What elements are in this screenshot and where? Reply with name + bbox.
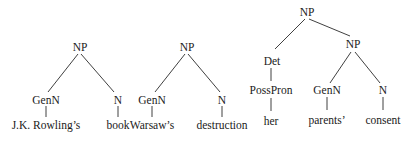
tree-3-posspron: PossPron (250, 84, 293, 96)
tree-1-root-np: NP (73, 41, 88, 53)
tree-3-leaf-parents: parents’ (308, 114, 345, 126)
tree-2-leaf-destruction: destruction (196, 119, 247, 131)
tree-1-genn: GenN (32, 94, 59, 106)
tree-3-root-np: NP (300, 6, 315, 18)
tree-2-leaf-warsaws: Warsaw’s (130, 119, 174, 131)
tree-1-leaf-book: book (107, 119, 130, 131)
tree-2-n: N (218, 94, 226, 106)
tree-3-genn: GenN (313, 84, 340, 96)
tree-3-leaf-her: her (264, 115, 279, 127)
tree-3-det: Det (264, 55, 281, 67)
tree-3-n: N (379, 84, 387, 96)
tree-1-leaf-rowlings: J.K. Rowling’s (12, 119, 81, 131)
tree-2-root-np: NP (180, 41, 195, 53)
tree-1-n: N (114, 94, 122, 106)
tree-3-leaf-consent: consent (365, 114, 400, 126)
tree-2-genn: GenN (138, 94, 165, 106)
tree-3-inner-np: NP (346, 38, 361, 50)
